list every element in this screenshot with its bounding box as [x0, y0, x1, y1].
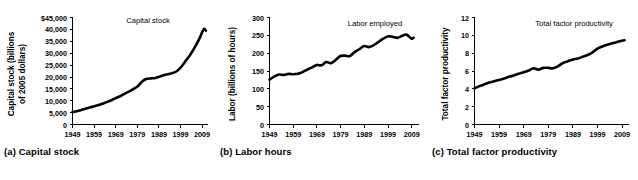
panel-capital-stock: Capital stock (billions of 2005 dollars)… — [0, 0, 213, 180]
y-tick-label: 40,000 — [45, 25, 67, 34]
y-tick-label: 35,000 — [45, 37, 67, 46]
data-line-capital-stock — [73, 29, 206, 112]
x-tick-label: 1949 — [65, 130, 81, 139]
x-tick-label: 1949 — [467, 130, 483, 139]
x-tick-label: 1979 — [540, 130, 556, 139]
economics-figure: Capital stock (billions of 2005 dollars)… — [0, 0, 638, 180]
x-tick-label: 1979 — [129, 130, 145, 139]
x-tick-label: 1969 — [309, 130, 325, 139]
panel-caption-c: (c) Total factor productivity — [432, 146, 557, 157]
x-tick-label: 1959 — [86, 130, 102, 139]
x-tick-label: 1989 — [356, 130, 372, 139]
x-ticks — [73, 125, 203, 129]
panel-caption-b: (b) Labor hours — [220, 146, 292, 157]
y-axis-title-tfp: Total factor productivity — [441, 27, 450, 121]
y-tick-labels-capital-stock: $45,000 40,000 35,000 30,000 25,000 20,0… — [41, 14, 67, 130]
y-tick-label: 10 — [461, 31, 469, 40]
x-tick-labels-labor: 1949 1959 1969 1979 1989 1999 2009 — [262, 130, 420, 139]
data-line-labor — [270, 35, 414, 80]
x-tick-label: 1959 — [491, 130, 507, 139]
x-tick-label: 1989 — [565, 130, 581, 139]
y-tick-label: 8 — [465, 49, 469, 58]
y-tick-label: 20,000 — [45, 73, 67, 82]
y-tick-labels-tfp: 12 10 8 6 4 2 0 — [461, 14, 469, 130]
x-tick-label: 1959 — [285, 130, 301, 139]
y-tick-label: 200 — [252, 49, 264, 58]
x-tick-labels-capital-stock: 1949 1959 1969 1979 1989 1999 2009 — [65, 130, 211, 139]
series-label-labor: Labor employed — [348, 19, 402, 28]
axes-capital-stock — [70, 18, 209, 129]
x-tick-label: 1999 — [380, 130, 396, 139]
x-tick-label: 2009 — [614, 130, 630, 139]
y-tick-label: 0 — [465, 121, 469, 130]
y-tick-label: 0 — [260, 121, 264, 130]
panel-labor-hours: Labor (billions of hours) 300 250 200 15… — [212, 0, 425, 180]
y-tick-label: 25,000 — [45, 61, 67, 70]
data-line-tfp — [475, 40, 625, 88]
y-tick-label: 150 — [252, 67, 264, 76]
y-tick-label: 50 — [256, 103, 264, 112]
x-tick-labels-tfp: 1949 1959 1969 1979 1989 1999 2009 — [467, 130, 631, 139]
y-tick-label: 300 — [252, 14, 264, 23]
x-tick-label: 1949 — [262, 130, 278, 139]
y-axis-title-labor: Labor (billions of hours) — [228, 27, 237, 121]
y-tick-label: 5,000 — [49, 109, 67, 118]
x-ticks — [270, 125, 412, 129]
x-tick-label: 1979 — [333, 130, 349, 139]
y-tick-label: 250 — [252, 31, 264, 40]
y-axis-title-capital-stock: Capital stock (billions of 2005 dollars) — [7, 31, 27, 116]
y-tick-label: 10,000 — [45, 97, 67, 106]
axes-tfp — [472, 18, 630, 129]
y-tick-label: 30,000 — [45, 49, 67, 58]
y-tick-label: 4 — [465, 85, 469, 94]
x-tick-label: 1999 — [173, 130, 189, 139]
x-tick-label: 1999 — [590, 130, 606, 139]
y-axis-title-line-1: Labor (billions of hours) — [228, 27, 237, 121]
x-tick-label: 1969 — [108, 130, 124, 139]
x-ticks — [475, 125, 623, 129]
series-label-capital-stock: Capital stock — [126, 16, 170, 25]
y-tick-label: 2 — [465, 103, 469, 112]
y-tick-label: 12 — [461, 14, 469, 23]
y-tick-labels-labor: 300 250 200 150 100 50 0 — [252, 14, 264, 130]
tfp-chart: Total factor productivity 12 10 8 6 4 2 … — [424, 0, 637, 146]
panel-caption-a: (a) Capital stock — [4, 146, 79, 157]
x-tick-label: 1969 — [516, 130, 532, 139]
labor-hours-chart: Labor (billions of hours) 300 250 200 15… — [212, 0, 425, 146]
y-tick-label: 0 — [63, 121, 67, 130]
y-axis-title-line-1: Capital stock (billions — [7, 31, 16, 116]
x-tick-label: 1989 — [151, 130, 167, 139]
x-tick-label: 2009 — [194, 130, 210, 139]
series-label-tfp: Total factor productivity — [535, 19, 613, 28]
y-tick-label: 100 — [252, 85, 264, 94]
panel-total-factor-productivity: Total factor productivity 12 10 8 6 4 2 … — [424, 0, 637, 180]
capital-stock-chart: Capital stock (billions of 2005 dollars)… — [0, 0, 213, 146]
y-axis-title-line-2: of 2005 dollars) — [18, 44, 27, 104]
y-tick-label: 15,000 — [45, 85, 67, 94]
y-axis-title-line-1: Total factor productivity — [441, 27, 450, 121]
x-tick-label: 2009 — [404, 130, 420, 139]
y-tick-label: $45,000 — [41, 14, 67, 23]
y-tick-label: 6 — [465, 67, 469, 76]
